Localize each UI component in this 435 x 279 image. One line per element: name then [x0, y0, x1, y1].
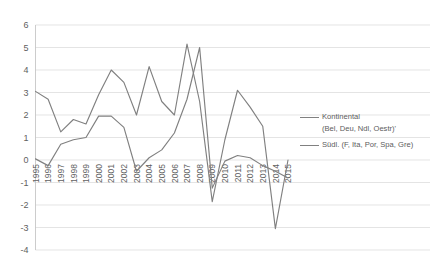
- x-tick-label: 2002: [119, 164, 129, 183]
- legend-entry-kontinental: Kontinental (Bel, Deu, Ndl, Oestr)': [300, 112, 435, 133]
- chart-legend: Kontinental (Bel, Deu, Ndl, Oestr)' Südl…: [300, 112, 435, 157]
- x-tick-label: 2008: [195, 164, 205, 183]
- x-tick-label: 2011: [233, 164, 243, 183]
- legend-entry-suedl: Südl. (F, Ita, Por, Spa, Gre): [300, 140, 435, 150]
- series-line-suedl: [36, 44, 289, 229]
- y-tick-label: 3: [23, 88, 28, 98]
- y-tick-label: 4: [23, 65, 28, 75]
- x-tick-label: 2007: [182, 164, 192, 183]
- legend-swatch-kontinental: [300, 117, 319, 118]
- legend-swatch-suedl: [300, 145, 319, 146]
- line-chart: -4-3-2-10123456 199519961997199819992000…: [0, 0, 435, 279]
- x-tick-label: 2004: [144, 164, 154, 183]
- y-tick-label: -3: [20, 223, 28, 233]
- x-tick-label: 1999: [81, 164, 91, 183]
- legend-label-suedl: Südl. (F, Ita, Por, Spa, Gre): [322, 140, 413, 150]
- y-tick-label: 1: [23, 133, 28, 143]
- y-tick-label: 5: [23, 43, 28, 53]
- y-tick-label: 6: [23, 20, 28, 30]
- x-tick-label: 1995: [31, 164, 41, 183]
- x-tick-label: 2013: [258, 164, 268, 183]
- y-tick-label: 0: [23, 155, 28, 165]
- x-tick-label: 2012: [245, 164, 255, 183]
- x-tick-labels: 1995199619971998199920002001200220032004…: [31, 164, 294, 183]
- x-tick-label: 2005: [157, 164, 167, 183]
- legend-label-kontinental: Kontinental: [322, 112, 360, 122]
- legend-sublabel-kontinental: (Bel, Deu, Ndl, Oestr)': [300, 124, 435, 134]
- y-tick-label: -4: [20, 245, 28, 255]
- y-tick-label: -2: [20, 200, 28, 210]
- x-tick-label: 1997: [56, 164, 66, 183]
- x-tick-label: 2000: [94, 164, 104, 183]
- x-tick-label: 1998: [69, 164, 79, 183]
- x-tick-label: 2006: [170, 164, 180, 183]
- y-tick-label: -1: [20, 178, 28, 188]
- x-tick-label: 1996: [43, 164, 53, 183]
- series-lines: [36, 44, 289, 229]
- y-tick-label: 2: [23, 110, 28, 120]
- x-tick-label: 2001: [106, 164, 116, 183]
- y-tick-labels: -4-3-2-10123456: [20, 20, 28, 255]
- x-tick-label: 2010: [220, 164, 230, 183]
